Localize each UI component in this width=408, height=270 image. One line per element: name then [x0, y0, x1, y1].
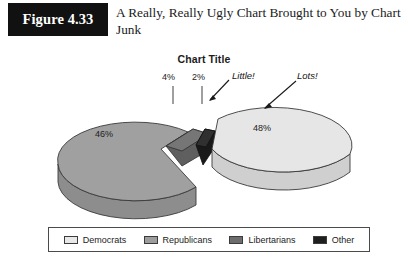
pie-slice-democrats — [212, 107, 352, 190]
legend-swatch-republicans — [144, 236, 158, 244]
chart-legend: Democrats Republicans Libertarians Other — [48, 227, 370, 252]
figure-caption: A Really, Really Ugly Chart Brought to Y… — [116, 4, 402, 38]
data-label-other: 2% — [192, 72, 205, 82]
data-label-democrats: 48% — [253, 123, 271, 133]
legend-label-republicans: Republicans — [163, 235, 213, 245]
chart-area: Chart Title — [0, 46, 408, 270]
figure-number-label: Figure 4.33 — [8, 3, 108, 36]
legend-label-libertarians: Libertarians — [248, 235, 295, 245]
legend-swatch-democrats — [64, 236, 78, 244]
legend-swatch-libertarians — [229, 236, 243, 244]
annotation-lots: Lots! — [297, 70, 318, 81]
figure-number-box: Figure 4.33 — [8, 3, 108, 36]
legend-item-other: Other — [313, 235, 355, 245]
data-label-republicans: 46% — [95, 129, 113, 139]
legend-item-libertarians: Libertarians — [229, 235, 295, 245]
legend-label-democrats: Democrats — [83, 235, 127, 245]
annotation-little: Little! — [232, 70, 255, 81]
legend-item-republicans: Republicans — [144, 235, 213, 245]
annotation-arrow-lots — [264, 81, 296, 109]
data-label-libertarians: 4% — [162, 72, 175, 82]
annotation-arrow-little — [209, 80, 229, 101]
figure-header: Figure 4.33 A Really, Really Ugly Chart … — [0, 0, 408, 46]
legend-label-other: Other — [332, 235, 355, 245]
pie-slice-republicans — [58, 122, 196, 219]
legend-item-democrats: Democrats — [64, 235, 127, 245]
legend-swatch-other — [313, 236, 327, 244]
